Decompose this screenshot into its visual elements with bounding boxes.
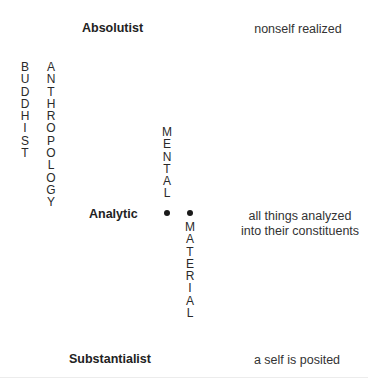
letter: I: [23, 122, 26, 134]
anthropology-vertical-label: A N T H R O P O L O G Y: [45, 61, 57, 209]
letter: L: [187, 307, 194, 319]
description-line-1: all things analyzed: [230, 209, 368, 224]
letter: E: [163, 138, 171, 150]
level-analytic-description: all things analyzed into their constitue…: [230, 209, 368, 239]
level-absolutist-description: nonself realized: [240, 22, 356, 37]
material-vertical-label: M A T E R I A L: [184, 221, 196, 319]
letter: N: [47, 73, 56, 85]
level-analytic-label: Analytic: [89, 207, 138, 221]
mental-dot-marker: [164, 210, 170, 216]
letter: A: [186, 233, 194, 245]
bottom-divider: [0, 377, 368, 378]
buddhist-vertical-label: B U D D H I S T: [19, 61, 31, 159]
letter: L: [164, 187, 171, 199]
level-substantialist-description: a self is posited: [238, 353, 356, 368]
letter: O: [46, 122, 55, 134]
letter: I: [188, 282, 191, 294]
description-line-2: into their constituents: [230, 224, 368, 239]
material-dot-marker: [187, 210, 193, 216]
mental-vertical-label: M E N T A L: [161, 126, 173, 200]
level-absolutist-label: Absolutist: [82, 21, 143, 35]
letter: U: [21, 73, 30, 85]
letter: Y: [47, 196, 55, 208]
letter: L: [48, 159, 55, 171]
letter: T: [21, 147, 28, 159]
level-substantialist-label: Substantialist: [69, 352, 151, 366]
